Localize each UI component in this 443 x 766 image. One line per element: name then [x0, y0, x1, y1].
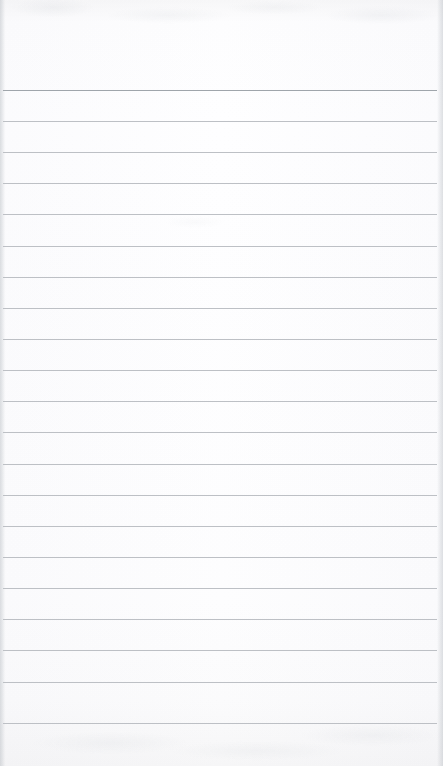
writing-row[interactable] [3, 340, 437, 370]
writing-row[interactable] [3, 122, 437, 152]
writing-row[interactable] [3, 433, 437, 464]
writing-row[interactable] [3, 402, 437, 432]
writing-row[interactable] [3, 651, 437, 682]
notepad-page [0, 0, 443, 766]
writing-row[interactable] [3, 184, 437, 214]
writing-row[interactable] [3, 371, 437, 401]
writing-row[interactable] [3, 247, 437, 277]
ruled-lines-layer [0, 0, 443, 766]
page-footer-area[interactable] [0, 724, 443, 766]
writing-row[interactable] [3, 278, 437, 308]
writing-row[interactable] [3, 215, 437, 246]
writing-row[interactable] [3, 496, 437, 526]
writing-row[interactable] [3, 527, 437, 557]
writing-row[interactable] [3, 91, 437, 121]
writing-row[interactable] [3, 683, 437, 723]
writing-row[interactable] [3, 153, 437, 183]
writing-row[interactable] [3, 309, 437, 339]
writing-row[interactable] [3, 558, 437, 588]
writing-row[interactable] [3, 465, 437, 495]
writing-row[interactable] [3, 620, 437, 650]
writing-row[interactable] [3, 589, 437, 619]
